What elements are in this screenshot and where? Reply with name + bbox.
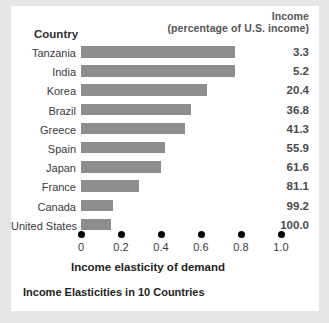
- country-column-header: Country: [34, 28, 78, 40]
- bar-track: [81, 46, 281, 58]
- axis-tick-label: 0.4: [141, 241, 181, 253]
- axis-tick-dot: [118, 231, 125, 238]
- chart-figure: Income (percentage of U.S. income) Count…: [0, 0, 329, 323]
- country-label: Tanzania: [11, 47, 76, 59]
- bar: [81, 180, 139, 192]
- axis-tick-dot: [238, 231, 245, 238]
- bar: [81, 142, 165, 154]
- country-label: United States: [11, 220, 76, 232]
- axis-tick-dot: [198, 231, 205, 238]
- country-label: Korea: [11, 85, 76, 97]
- income-value: 5.2: [261, 65, 309, 77]
- chart-row: Japan61.6: [11, 160, 319, 179]
- bar-track: [81, 161, 281, 173]
- axis-tick-dot: [158, 231, 165, 238]
- chart-row: Brazil36.8: [11, 103, 319, 122]
- income-column-header: Income: [272, 10, 309, 22]
- bar: [81, 161, 161, 173]
- chart-row: India5.2: [11, 64, 319, 83]
- income-value: 41.3: [261, 123, 309, 135]
- country-label: Greece: [11, 124, 76, 136]
- bar: [81, 104, 191, 116]
- axis-tick-label: 0.8: [221, 241, 261, 253]
- bar: [81, 219, 111, 231]
- chart-row: Greece41.3: [11, 122, 319, 141]
- chart-row: France81.1: [11, 179, 319, 198]
- bar: [81, 200, 113, 212]
- chart-row: Tanzania3.3: [11, 45, 319, 64]
- bar-track: [81, 200, 281, 212]
- chart-card: Income (percentage of U.S. income) Count…: [11, 6, 319, 311]
- axis-tick-label: 0.6: [181, 241, 221, 253]
- bar-track: [81, 84, 281, 96]
- chart-row: Korea20.4: [11, 83, 319, 102]
- income-value: 3.3: [261, 46, 309, 58]
- chart-row: Canada99.2: [11, 199, 319, 218]
- income-value: 36.8: [261, 104, 309, 116]
- country-label: Canada: [11, 201, 76, 213]
- bar: [81, 65, 235, 77]
- axis-tick-dot: [278, 231, 285, 238]
- country-label: Japan: [11, 162, 76, 174]
- income-value: 81.1: [261, 180, 309, 192]
- chart-rows: Tanzania3.3India5.2Korea20.4Brazil36.8Gr…: [11, 45, 319, 237]
- bar-track: [81, 104, 281, 116]
- axis-tick-label: 1.0: [261, 241, 301, 253]
- income-value: 55.9: [261, 142, 309, 154]
- income-column-subheader: (percentage of U.S. income): [167, 22, 309, 34]
- bar-track: [81, 123, 281, 135]
- axis-tick-dot: [78, 231, 85, 238]
- country-label: France: [11, 181, 76, 193]
- country-label: India: [11, 66, 76, 78]
- bar: [81, 84, 207, 96]
- income-value: 99.2: [261, 200, 309, 212]
- income-value: 20.4: [261, 84, 309, 96]
- bar-track: [81, 142, 281, 154]
- bar: [81, 46, 235, 58]
- country-label: Spain: [11, 143, 76, 155]
- axis-tick-label: 0: [61, 241, 101, 253]
- bar-track: [81, 219, 281, 231]
- x-axis-title: Income elasticity of demand: [11, 261, 319, 273]
- chart-row: Spain55.9: [11, 141, 319, 160]
- chart-caption: Income Elasticities in 10 Countries: [23, 286, 205, 298]
- country-label: Brazil: [11, 105, 76, 117]
- bar: [81, 123, 185, 135]
- bar-track: [81, 65, 281, 77]
- income-value: 61.6: [261, 161, 309, 173]
- axis-tick-label: 0.2: [101, 241, 141, 253]
- income-value: 100.0: [261, 219, 309, 231]
- bar-track: [81, 180, 281, 192]
